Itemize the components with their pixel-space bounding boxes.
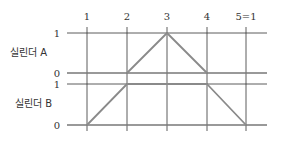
step-label-1: 1 — [84, 11, 90, 22]
step-label-3: 3 — [164, 11, 170, 22]
cylinder-a-level-1: 1 — [54, 28, 60, 39]
cylinder-b-label: 실린더 B — [15, 98, 52, 109]
cylinder-b-level-1: 1 — [54, 79, 60, 90]
step-label-2: 2 — [124, 11, 130, 22]
cylinder-b-motion — [87, 84, 246, 125]
cylinder-b-level-0: 0 — [54, 120, 60, 131]
step-label-5: 5=1 — [235, 11, 256, 22]
step-gridlines — [87, 27, 246, 131]
cylinder-a-level-0: 0 — [54, 68, 60, 79]
cylinder-a-label: 실린더 A — [10, 47, 47, 58]
displacement-step-diagram: 1 2 3 4 5=1 1 0 1 0 실린더 A 실린더 B — [0, 0, 281, 142]
step-label-4: 4 — [204, 11, 210, 22]
